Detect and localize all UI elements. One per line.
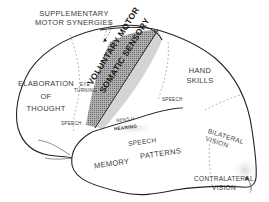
label-speech-frontal: SPEECH xyxy=(61,122,82,127)
sma-arrow-head xyxy=(103,38,107,42)
brain-diagram: SUPPLEMENTARY MOTOR SYNERGIES ELABORATIO… xyxy=(0,0,269,202)
label-hand-skills: HAND SKILLS xyxy=(180,67,220,84)
label-elaboration-line3: THOUGHT xyxy=(18,105,74,113)
label-supplementary-motor-synergies: SUPPLEMENTARY MOTOR SYNERGIES xyxy=(34,10,114,26)
label-supplementary-line2: MOTOR SYNERGIES xyxy=(34,19,114,27)
label-eye-line2: TURNING xyxy=(74,89,96,94)
label-hand-line1: HAND xyxy=(180,67,220,75)
label-supplementary-line1: SUPPLEMENTARY xyxy=(34,10,114,18)
label-contralateral-line1: CONTRALATERAL xyxy=(188,176,260,183)
orbital-line xyxy=(38,140,70,155)
label-elaboration-of-thought: ELABORATION OF THOUGHT xyxy=(18,80,74,113)
label-elaboration-line2: OF xyxy=(18,93,74,101)
label-elaboration-line1: ELABORATION xyxy=(18,80,74,88)
label-speech-parietal: SPEECH xyxy=(162,98,183,103)
orbital-line-lower xyxy=(45,158,71,159)
label-contralateral-vision: CONTRALATERAL VISION xyxy=(188,176,260,191)
label-contralateral-line2: VISION xyxy=(188,185,260,192)
label-hand-line2: SKILLS xyxy=(180,77,220,85)
